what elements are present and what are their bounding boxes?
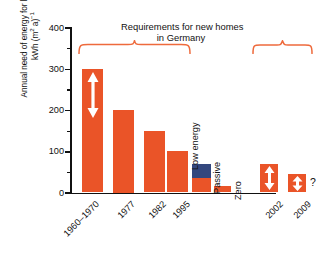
y-tick-label-0: 0 xyxy=(38,188,64,198)
arrow-double-2002 xyxy=(264,166,275,190)
y-axis-title-line2: kWh (m2 a)−1 xyxy=(30,0,42,97)
annotation-requirements: Requirements for new homes in Germany xyxy=(121,21,241,44)
x-tick-label-2009: 2009 xyxy=(279,199,313,233)
x-tick-label-2002: 2002 xyxy=(251,199,285,233)
y-tick-150 xyxy=(67,131,70,132)
x-tick-label-1977: 1977 xyxy=(103,199,137,233)
y-tick-50 xyxy=(67,172,70,173)
plot-label-passive: Passive xyxy=(212,162,222,194)
bar-1977 xyxy=(113,110,134,193)
y-tick-300 xyxy=(65,69,70,70)
y-axis-units-prefix: kWh (m xyxy=(30,32,40,60)
y-tick-250 xyxy=(67,89,70,90)
y-tick-400 xyxy=(65,27,70,28)
y-tick-200 xyxy=(65,110,70,111)
chart-figure: Annual need of energy for heating kWh (m… xyxy=(0,0,334,263)
y-axis-line xyxy=(70,27,72,194)
y-tick-label-300: 300 xyxy=(28,64,64,74)
x-axis-line xyxy=(70,193,276,195)
y-axis-units-sup-minus1: −1 xyxy=(28,12,35,19)
y-tick-label-100: 100 xyxy=(28,146,64,156)
y-tick-100 xyxy=(65,151,70,152)
y-tick-label-200: 200 xyxy=(28,105,64,115)
bar-1982 xyxy=(144,131,165,193)
y-tick-0 xyxy=(65,192,70,193)
arrow-double-2009 xyxy=(292,176,303,191)
bar-1995 xyxy=(167,151,188,192)
brace-right-requirements xyxy=(252,40,314,54)
x-tick-label-1960-1970: 1960–1970 xyxy=(54,199,101,246)
annotation-question-mark: ? xyxy=(310,176,316,188)
y-tick-350 xyxy=(67,48,70,49)
annotation-requirements-line2: in Germany xyxy=(121,32,241,43)
y-axis-title-line1: Annual need of energy for heating xyxy=(19,0,29,97)
plot-label-low-energy: Low energy xyxy=(190,123,200,171)
y-tick-label-400: 400 xyxy=(28,23,64,33)
plot-label-zero: Zero xyxy=(233,181,243,200)
bar-low-energy-orange xyxy=(192,178,211,192)
arrow-double-1960-1970 xyxy=(87,72,99,118)
annotation-requirements-line1: Requirements for new homes xyxy=(121,21,241,32)
